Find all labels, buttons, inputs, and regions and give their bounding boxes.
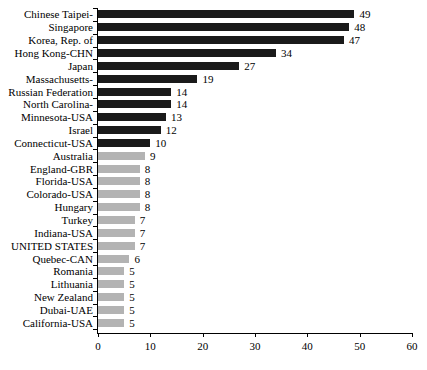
x-axis-tick-label: 60 [407, 341, 418, 352]
y-axis-tick [93, 188, 97, 189]
y-axis-tick [93, 316, 97, 317]
x-axis-tick [255, 333, 256, 337]
category-label: Australia [53, 150, 93, 161]
bar-row: Dubai-UAE5 [98, 304, 412, 317]
y-axis-tick [93, 21, 97, 22]
bar-value-label: 10 [155, 137, 166, 148]
bar-value-label: 5 [129, 304, 135, 315]
y-axis-tick [93, 239, 97, 240]
bar [98, 139, 150, 147]
bar-row: Hong Kong-CHN34 [98, 47, 412, 60]
bar-row: Turkey7 [98, 214, 412, 227]
x-axis-tick [203, 333, 204, 337]
bar-row: Japan27 [98, 59, 412, 72]
bar-row: Minnesota-USA13 [98, 111, 412, 124]
category-label: Dubai-UAE [40, 304, 93, 315]
bar-row: Israel12 [98, 124, 412, 137]
category-label: UNITED STATES [11, 240, 93, 251]
bar [98, 177, 140, 185]
x-axis-tick-label: 50 [354, 341, 365, 352]
x-axis-tick-label: 40 [302, 341, 313, 352]
bar-value-label: 5 [129, 317, 135, 328]
bar-value-label: 7 [140, 240, 146, 251]
bar-value-label: 19 [202, 73, 213, 84]
category-label: New Zealand [34, 292, 93, 303]
category-label: Israel [69, 125, 93, 136]
bar [98, 113, 166, 121]
bar [98, 165, 140, 173]
y-axis-tick [93, 98, 97, 99]
bar [98, 10, 354, 18]
bar-value-label: 5 [129, 266, 135, 277]
y-axis-tick [93, 162, 97, 163]
bar-row: California-USA5 [98, 316, 412, 329]
bar-row: Connecticut-USA10 [98, 137, 412, 150]
bar [98, 62, 239, 70]
bar [98, 216, 135, 224]
y-axis-tick [93, 252, 97, 253]
bar-value-label: 47 [349, 35, 360, 46]
bar-row: Massachusetts-19 [98, 72, 412, 85]
bar-value-label: 27 [244, 60, 255, 71]
category-label: Indiana-USA [34, 227, 93, 238]
y-axis-tick [93, 226, 97, 227]
category-label: North Carolina- [23, 99, 93, 110]
bar-value-label: 7 [140, 227, 146, 238]
bar [98, 203, 140, 211]
category-label: Florida-USA [36, 176, 93, 187]
bar [98, 190, 140, 198]
x-axis-tick [150, 333, 151, 337]
x-axis-tick [307, 333, 308, 337]
bar-row: Romania5 [98, 265, 412, 278]
bar [98, 267, 124, 275]
bar [98, 75, 197, 83]
bar [98, 23, 349, 31]
category-label: Romania [53, 266, 93, 277]
y-axis-tick [93, 137, 97, 138]
bar-value-label: 13 [171, 112, 182, 123]
bar-row: England-GBR8 [98, 162, 412, 175]
category-label: Minnesota-USA [21, 112, 93, 123]
bar-row: Russian Federation14 [98, 85, 412, 98]
bar-row: New Zealand5 [98, 291, 412, 304]
x-axis-tick-label: 10 [145, 341, 156, 352]
y-axis-tick [93, 85, 97, 86]
y-axis-tick [93, 111, 97, 112]
x-axis-tick-label: 30 [250, 341, 261, 352]
bar-row: UNITED STATES7 [98, 239, 412, 252]
bar [98, 88, 171, 96]
bar-value-label: 5 [129, 292, 135, 303]
bar-value-label: 8 [145, 189, 151, 200]
bar-value-label: 7 [140, 215, 146, 226]
category-label: Quebec-CAN [33, 253, 93, 264]
y-axis-tick [93, 304, 97, 305]
bar-row: Singapore48 [98, 21, 412, 34]
y-axis-tick [93, 278, 97, 279]
bar-row: Indiana-USA7 [98, 226, 412, 239]
y-axis-tick [93, 201, 97, 202]
y-axis-tick [93, 265, 97, 266]
bar-row: Quebec-CAN6 [98, 252, 412, 265]
bar-value-label: 9 [150, 150, 156, 161]
category-label: Turkey [62, 215, 93, 226]
x-axis-tick [412, 333, 413, 337]
bar-row: Lithuania5 [98, 278, 412, 291]
category-label: Lithuania [51, 279, 93, 290]
category-label: England-GBR [30, 163, 93, 174]
category-label: Hungary [55, 202, 94, 213]
bar [98, 293, 124, 301]
bar [98, 280, 124, 288]
bar-value-label: 49 [359, 9, 370, 20]
bar [98, 319, 124, 327]
bar [98, 100, 171, 108]
bar-value-label: 14 [176, 86, 187, 97]
x-axis-tick [98, 333, 99, 337]
plot-area: Chinese Taipei-49Singapore48Korea, Rep. … [98, 0, 412, 333]
category-label: Colorado-USA [26, 189, 93, 200]
bar-row: Colorado-USA8 [98, 188, 412, 201]
category-label: Korea, Rep. of [28, 35, 93, 46]
y-axis-tick [93, 291, 97, 292]
y-axis-tick [93, 72, 97, 73]
bar-value-label: 6 [134, 253, 140, 264]
bar-value-label: 8 [145, 202, 151, 213]
